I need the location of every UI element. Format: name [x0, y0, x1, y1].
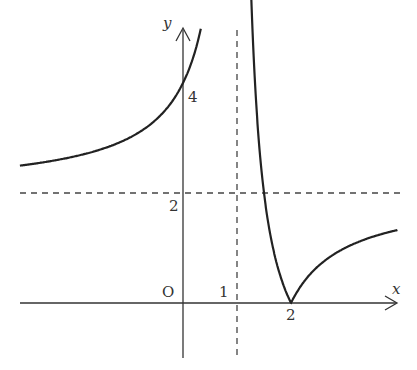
origin-label: O [162, 283, 174, 301]
curve-left-branch [20, 29, 201, 166]
x-axis-label: x [392, 280, 400, 298]
y-tick-4: 4 [188, 88, 198, 106]
y-tick-2: 2 [169, 197, 179, 215]
curve-right-branch [249, 0, 397, 303]
graph-figure: y x O 1 2 2 4 [0, 0, 417, 370]
graph-canvas [0, 0, 417, 370]
x-tick-1: 1 [219, 283, 229, 301]
y-axis-label: y [163, 14, 171, 32]
x-tick-2: 2 [286, 306, 296, 324]
